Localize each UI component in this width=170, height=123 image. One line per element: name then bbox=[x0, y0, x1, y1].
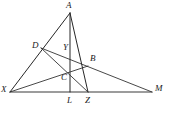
point-label-a: A bbox=[66, 1, 72, 10]
point-label-y: Y bbox=[63, 43, 68, 52]
point-label-b: B bbox=[90, 54, 96, 63]
point-label-x: X bbox=[1, 85, 7, 94]
point-label-d: D bbox=[32, 41, 39, 50]
point-label-c: C bbox=[61, 73, 67, 82]
segments-group bbox=[10, 13, 152, 92]
segment-X-B bbox=[10, 66, 88, 92]
point-label-m: M bbox=[155, 84, 163, 93]
geometry-figure: ADYBCXLZM bbox=[0, 0, 170, 123]
segment-D-Z bbox=[41, 48, 88, 92]
segment-D-M bbox=[41, 48, 152, 92]
point-label-z: Z bbox=[85, 96, 90, 105]
segment-A-Z bbox=[70, 13, 88, 92]
point-label-l: L bbox=[67, 96, 72, 105]
